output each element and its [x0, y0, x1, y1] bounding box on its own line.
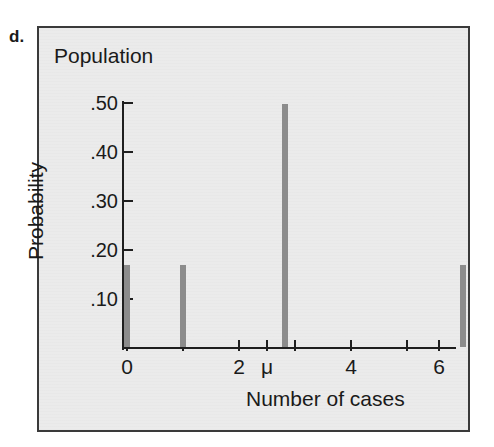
- chart-panel: [37, 26, 470, 432]
- figure-root: d. Population .50 .40 .30 .20 .10 0 2 μ …: [0, 0, 494, 447]
- figure-item-label: d.: [9, 27, 24, 47]
- chart-title: Population: [54, 44, 153, 68]
